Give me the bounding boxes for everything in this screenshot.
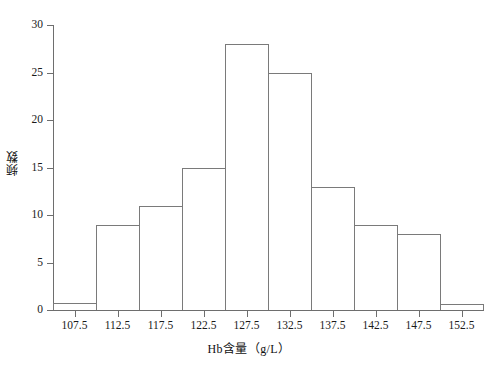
x-axis-tick-mark [118,311,119,317]
x-axis-tick-mark [419,311,420,317]
x-axis-tick-mark [290,311,291,317]
x-axis-tick-mark [161,311,162,317]
x-axis-tick-mark [376,311,377,317]
x-axis-ticks: 107.5112.5117.5122.5127.5132.5137.5142.5… [0,0,498,367]
x-axis-tick-mark [247,311,248,317]
x-axis-tick-mark [75,311,76,317]
x-axis-title: Hb含量（g/L） [0,339,498,357]
y-axis-title: 频数 [4,150,21,176]
x-axis-tick-mark [462,311,463,317]
x-axis-tick-mark [333,311,334,317]
x-axis-tick-mark [204,311,205,317]
histogram-figure: 051015202530 107.5112.5117.5122.5127.513… [0,0,498,367]
x-axis-tick-label: 152.5 [435,320,489,332]
